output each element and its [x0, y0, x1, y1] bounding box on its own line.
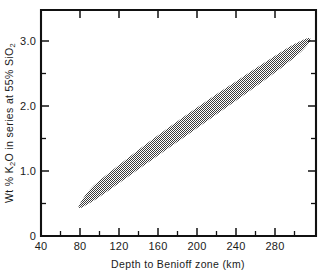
y-axis-tick-labels: 0 1.0 2.0 3.0	[20, 35, 36, 242]
y-tick-label-3: 3.0	[20, 35, 36, 47]
y-axis-title-sub2: 2	[8, 43, 17, 48]
x-tick-label-4: 200	[188, 240, 207, 252]
y-tick-label-2: 2.0	[20, 100, 36, 112]
x-tick-label-2: 120	[110, 240, 129, 252]
x-tick-label-0: 40	[35, 240, 48, 252]
y-axis-title-seg1: Wt % K	[3, 166, 15, 203]
benioff-k2o-plot: 40 80 120 160 200 240 280 0 1.0 2.0 3.0 …	[0, 0, 328, 275]
x-axis-title: Depth to Benioff zone (km)	[111, 258, 245, 270]
x-tick-label-1: 80	[74, 240, 87, 252]
y-tick-label-1: 1.0	[20, 165, 36, 177]
x-tick-label-3: 160	[149, 240, 168, 252]
y-axis-title-seg2: O in series at 55% SiO	[3, 47, 15, 161]
chart-figure: 40 80 120 160 200 240 280 0 1.0 2.0 3.0 …	[0, 0, 328, 275]
x-tick-label-5: 240	[227, 240, 246, 252]
x-axis-tick-labels: 40 80 120 160 200 240 280	[35, 240, 285, 252]
y-axis-title: Wt % K2O in series at 55% SiO2	[3, 43, 17, 203]
x-tick-label-6: 280	[266, 240, 285, 252]
y-tick-label-0: 0	[30, 230, 36, 242]
